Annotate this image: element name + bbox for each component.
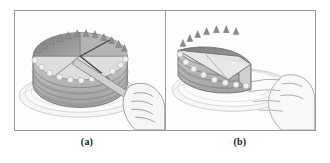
figure-panel-b: [165, 10, 316, 131]
caption-panel-a: (a): [47, 136, 127, 147]
cake-b: [177, 26, 251, 93]
figure-panel-a: [14, 10, 166, 131]
figure-container: (a) (b): [0, 0, 330, 163]
hand-a: [123, 83, 165, 130]
panel-a-illustration: [15, 11, 165, 130]
panel-b-illustration: [166, 11, 315, 130]
caption-panel-b: (b): [200, 136, 280, 147]
frosting-peaks-b: [180, 26, 239, 47]
